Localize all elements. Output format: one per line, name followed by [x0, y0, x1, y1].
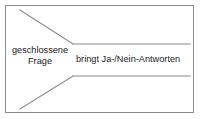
diagram-screenshot: geschlossene Frage bringt Ja-/Nein-Antwo… [0, 0, 200, 119]
yes-no-answers-label: bringt Ja-/Nein-Antworten [76, 54, 194, 65]
closed-question-label: geschlossene Frage [8, 45, 72, 67]
